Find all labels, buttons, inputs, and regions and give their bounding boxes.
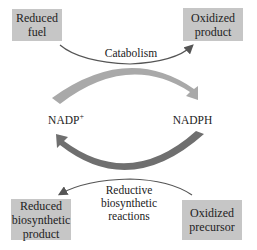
nadp-plus-label: NADP+ [46, 114, 86, 127]
reduced-fuel-line2: fuel [28, 25, 47, 39]
reductive-line1: Reductive [106, 184, 153, 196]
reduced-fuel-line1: Reduced [16, 11, 58, 25]
reductive-line3: reactions [108, 210, 150, 222]
reductive-biosynthetic-label: Reductive biosynthetic reactions [96, 184, 162, 223]
op-line2: precursor [189, 220, 234, 234]
rbp-line2: biosynthetic [12, 213, 71, 227]
oxidized-product-box: Oxidizedproduct [183, 8, 243, 41]
rbp-line3: product [23, 227, 60, 241]
reduced-biosynthetic-product-box: Reducedbiosyntheticproduct [11, 199, 71, 240]
nadp-charge: + [79, 112, 84, 121]
catabolism-label: Catabolism [96, 47, 166, 60]
reductive-line2: biosynthetic [101, 197, 157, 209]
oxidized-precursor-box: Oxidizedprecursor [182, 200, 242, 240]
oxidized-product-line1: Oxidized [191, 11, 235, 25]
nadph-label: NADPH [170, 114, 215, 127]
oxidized-product-line2: product [195, 25, 232, 39]
rbp-line1: Reduced [20, 199, 62, 213]
op-line1: Oxidized [190, 206, 234, 220]
bottom-arc-arrow [56, 131, 204, 170]
nadp-text: NADP [48, 114, 79, 126]
top-arc-arrow [52, 68, 198, 104]
reduced-fuel-box: Reducedfuel [12, 9, 62, 41]
